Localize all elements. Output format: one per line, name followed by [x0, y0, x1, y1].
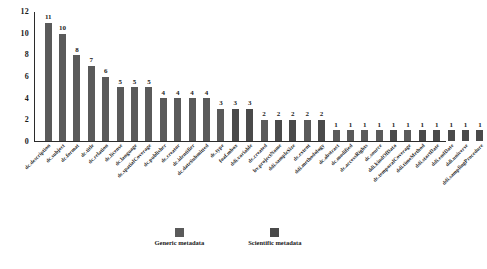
bar-slot: 4 [199, 12, 213, 141]
bar-slot: 5 [127, 12, 141, 141]
bar-slot: 1 [372, 12, 386, 141]
bar[interactable] [476, 130, 483, 141]
plot-area: 024681012 111087655544443332222211111111… [34, 12, 446, 142]
bar[interactable] [117, 87, 124, 141]
bar-value-label: 4 [176, 90, 180, 97]
bar[interactable] [246, 109, 253, 141]
legend-entry[interactable]: Generic metadata [155, 228, 205, 247]
bar-series: 111087655544443332222211111111111 [35, 12, 446, 141]
legend-label: Generic metadata [155, 240, 205, 247]
legend-swatch [270, 228, 279, 237]
bar-value-label: 4 [190, 90, 194, 97]
bar-slot: 1 [430, 12, 444, 141]
bar-value-label: 1 [392, 122, 396, 129]
y-tick-label: 0 [25, 138, 34, 146]
bar[interactable] [160, 98, 167, 141]
bar-slot: 5 [142, 12, 156, 141]
bar-value-label: 7 [90, 57, 94, 64]
y-tick-label: 2 [25, 116, 34, 124]
bar-value-label: 1 [478, 122, 482, 129]
y-tick-label: 8 [25, 51, 34, 59]
bar-value-label: 1 [334, 122, 338, 129]
bar-slot: 1 [343, 12, 357, 141]
bar-value-label: 11 [45, 14, 52, 21]
bar-slot: 2 [286, 12, 300, 141]
bar-slot: 1 [358, 12, 372, 141]
bar-value-label: 2 [320, 111, 324, 118]
bar-value-label: 1 [449, 122, 453, 129]
bar[interactable] [59, 34, 66, 142]
bar-slot: 2 [314, 12, 328, 141]
bar-value-label: 2 [305, 111, 309, 118]
bar[interactable] [131, 87, 138, 141]
bar-slot: 1 [444, 12, 458, 141]
bar-slot: 2 [257, 12, 271, 141]
bar-value-label: 10 [59, 25, 66, 32]
bar-value-label: 3 [219, 100, 223, 107]
bar-value-label: 3 [234, 100, 238, 107]
bar[interactable] [318, 120, 325, 142]
legend-entry[interactable]: Scientific metadata [248, 228, 301, 247]
bar-slot: 4 [185, 12, 199, 141]
bar[interactable] [333, 130, 340, 141]
bar-slot: 4 [171, 12, 185, 141]
bar[interactable] [419, 130, 426, 141]
bar[interactable] [304, 120, 311, 142]
y-tick-label: 4 [25, 95, 34, 103]
bar[interactable] [145, 87, 152, 141]
chart-legend: Generic metadataScientific metadata [0, 228, 456, 247]
bar-slot: 10 [55, 12, 69, 141]
bar-slot: 11 [41, 12, 55, 141]
bar-slot: 1 [401, 12, 415, 141]
bar[interactable] [390, 130, 397, 141]
bar[interactable] [462, 130, 469, 141]
bar[interactable] [189, 98, 196, 141]
bar-value-label: 2 [262, 111, 266, 118]
bar[interactable] [404, 130, 411, 141]
bar-slot: 1 [473, 12, 487, 141]
bar-slot: 4 [156, 12, 170, 141]
bar[interactable] [289, 120, 296, 142]
bar[interactable] [361, 130, 368, 141]
bar-slot: 1 [458, 12, 472, 141]
bar[interactable] [448, 130, 455, 141]
bar[interactable] [275, 120, 282, 142]
bar-value-label: 4 [205, 90, 209, 97]
bar[interactable] [45, 23, 52, 141]
bar[interactable] [203, 98, 210, 141]
bar-value-label: 2 [277, 111, 281, 118]
bar-value-label: 5 [118, 79, 122, 86]
bar-value-label: 1 [363, 122, 367, 129]
x-axis-tick-labels: dc.descriptiondc.subjectdc.formatdc.titl… [34, 143, 446, 223]
bar[interactable] [73, 55, 80, 141]
bar-slot: 5 [113, 12, 127, 141]
legend-swatch [175, 228, 184, 237]
y-tick-label: 10 [21, 30, 34, 38]
bar-slot: 1 [386, 12, 400, 141]
bar-value-label: 1 [435, 122, 439, 129]
bar-slot: 8 [70, 12, 84, 141]
bar-value-label: 1 [377, 122, 381, 129]
bar-slot: 1 [329, 12, 343, 141]
bar-slot: 2 [300, 12, 314, 141]
bar[interactable] [232, 109, 239, 141]
x-axis-line [34, 141, 446, 142]
bar[interactable] [217, 109, 224, 141]
bar-slot: 3 [228, 12, 242, 141]
bar-slot: 6 [99, 12, 113, 141]
bar[interactable] [88, 66, 95, 141]
bar[interactable] [261, 120, 268, 142]
bar-slot: 3 [242, 12, 256, 141]
bar-value-label: 5 [147, 79, 151, 86]
legend-label: Scientific metadata [248, 240, 301, 247]
bar[interactable] [102, 77, 109, 142]
bar-value-label: 5 [133, 79, 137, 86]
bar-value-label: 1 [349, 122, 353, 129]
bar[interactable] [347, 130, 354, 141]
bar-slot: 2 [271, 12, 285, 141]
bar[interactable] [174, 98, 181, 141]
bar[interactable] [376, 130, 383, 141]
bar[interactable] [433, 130, 440, 141]
y-tick-label: 6 [25, 73, 34, 81]
bar-value-label: 1 [421, 122, 425, 129]
